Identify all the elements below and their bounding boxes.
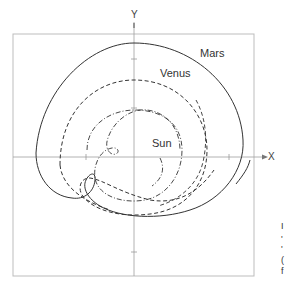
- mars-label: Mars: [200, 48, 224, 59]
- sun-path: [87, 110, 182, 201]
- axis-ticks: [86, 59, 229, 252]
- sun-path-inner: [152, 158, 163, 186]
- venus-path: [60, 80, 214, 215]
- x-axis-label: X: [268, 152, 275, 162]
- y-axis-label: Y: [131, 10, 138, 20]
- caption-fragment: I: [281, 222, 284, 231]
- caption-fragment: (: [281, 256, 284, 265]
- venus-label: Venus: [160, 68, 191, 79]
- diagram-canvas: [0, 0, 288, 285]
- mars-path-tail: [236, 160, 250, 184]
- mars-path: [36, 43, 243, 216]
- caption-fragment: ': [281, 245, 283, 254]
- caption-fragment: f: [281, 267, 284, 276]
- geocentric-orbit-diagram: Y X Mars Venus Sun I ' ' ( f: [0, 0, 288, 285]
- caption-fragment: ': [281, 235, 283, 244]
- sun-label: Sun: [152, 138, 172, 149]
- plot-frame: [13, 34, 254, 276]
